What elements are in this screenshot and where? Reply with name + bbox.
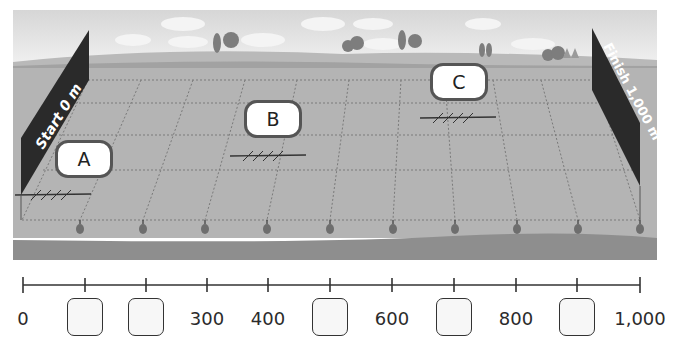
course-illustration: Start 0 m Finish 1,000 m <box>13 10 657 260</box>
answer-box-100[interactable] <box>67 298 103 336</box>
rowing-course-scene: Start 0 m Finish 1,000 m A B C <box>13 10 657 260</box>
boat-label-b: B <box>244 100 302 138</box>
answer-box-500[interactable] <box>312 298 348 336</box>
answer-box-900[interactable] <box>559 298 595 336</box>
boat-label-a: A <box>55 140 113 178</box>
boat-label-c: C <box>430 63 488 101</box>
tick-label-1000: 1,000 <box>614 308 666 329</box>
answer-box-700[interactable] <box>436 298 472 336</box>
tick-label-300: 300 <box>190 308 224 329</box>
tick-label-800: 800 <box>499 308 533 329</box>
tick-label-400: 400 <box>251 308 285 329</box>
tick-label-0: 0 <box>17 308 28 329</box>
tick-label-600: 600 <box>375 308 409 329</box>
answer-box-200[interactable] <box>128 298 164 336</box>
